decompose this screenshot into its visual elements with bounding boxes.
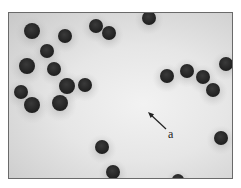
cell (214, 131, 228, 145)
cell (14, 85, 28, 99)
cell (19, 58, 35, 74)
cell (58, 29, 72, 43)
cell (52, 95, 68, 111)
annotation-label: a (168, 127, 173, 142)
cell (142, 11, 156, 25)
cell (59, 78, 75, 94)
cell (78, 78, 92, 92)
cell (24, 23, 40, 39)
cell (206, 83, 220, 97)
cell (102, 26, 116, 40)
cell (172, 174, 184, 186)
cell (47, 62, 61, 76)
cell (95, 140, 109, 154)
cell (89, 19, 103, 33)
cell (180, 64, 194, 78)
cell (106, 165, 120, 179)
cell (160, 69, 174, 83)
cell (196, 70, 210, 84)
cell (219, 57, 233, 71)
cell (40, 44, 54, 58)
cells-layer (0, 0, 241, 188)
annotation-arrow (150, 114, 166, 129)
cell (24, 97, 40, 113)
